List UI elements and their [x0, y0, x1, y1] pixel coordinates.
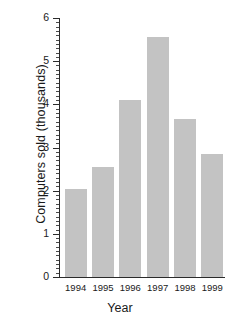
tick-mark — [56, 117, 60, 118]
tick-mark — [56, 35, 60, 36]
y-tick-label: 0 — [43, 270, 49, 282]
tick-mark — [53, 18, 59, 19]
tick-mark — [53, 61, 59, 62]
tick-mark — [56, 96, 60, 97]
y-tick-label: 4 — [43, 97, 49, 109]
tick-mark — [56, 139, 60, 140]
y-tick-label: 2 — [43, 184, 49, 196]
tick-mark — [56, 100, 60, 101]
tick-mark — [56, 143, 60, 144]
tick-mark — [56, 156, 60, 157]
tick-mark — [56, 212, 60, 213]
bar — [119, 100, 141, 277]
x-tick-label: 1999 — [192, 282, 232, 293]
tick-mark — [56, 230, 60, 231]
y-tick-label: 1 — [43, 227, 49, 239]
y-tick-label: 6 — [43, 11, 49, 23]
tick-mark — [56, 199, 60, 200]
tick-mark — [53, 277, 59, 278]
tick-mark — [56, 48, 60, 49]
tick-mark — [53, 148, 59, 149]
tick-mark — [56, 40, 60, 41]
tick-mark — [56, 65, 60, 66]
tick-mark — [56, 255, 60, 256]
tick-mark — [53, 104, 59, 105]
tick-mark — [56, 78, 60, 79]
tick-mark — [56, 122, 60, 123]
tick-mark — [56, 247, 60, 248]
tick-mark — [56, 165, 60, 166]
x-axis-line — [59, 277, 225, 278]
tick-mark — [56, 160, 60, 161]
bar-chart: Computers sold (thousands) 0123456 19941… — [0, 0, 240, 327]
tick-mark — [53, 191, 59, 192]
tick-mark — [56, 31, 60, 32]
y-tick-label: 3 — [43, 141, 49, 153]
tick-mark — [56, 83, 60, 84]
y-tick-label: 5 — [43, 54, 49, 66]
tick-mark — [56, 186, 60, 187]
tick-mark — [53, 234, 59, 235]
bar — [147, 37, 169, 277]
tick-mark — [56, 126, 60, 127]
tick-mark — [56, 217, 60, 218]
tick-mark — [56, 74, 60, 75]
tick-mark — [56, 22, 60, 23]
bar — [65, 189, 87, 277]
tick-mark — [56, 221, 60, 222]
tick-mark — [56, 130, 60, 131]
tick-mark — [56, 225, 60, 226]
tick-mark — [56, 195, 60, 196]
tick-mark — [56, 204, 60, 205]
tick-mark — [56, 57, 60, 58]
bar — [201, 154, 223, 277]
tick-mark — [56, 264, 60, 265]
tick-mark — [56, 53, 60, 54]
tick-mark — [56, 169, 60, 170]
x-axis-title: Year — [0, 301, 240, 315]
tick-mark — [56, 273, 60, 274]
plot-area — [60, 18, 224, 277]
tick-mark — [56, 238, 60, 239]
tick-mark — [56, 27, 60, 28]
tick-mark — [56, 70, 60, 71]
tick-mark — [56, 113, 60, 114]
tick-mark — [56, 152, 60, 153]
tick-mark — [56, 182, 60, 183]
tick-mark — [56, 268, 60, 269]
bar — [174, 119, 196, 277]
tick-mark — [56, 260, 60, 261]
tick-mark — [56, 109, 60, 110]
tick-mark — [56, 242, 60, 243]
tick-mark — [56, 44, 60, 45]
tick-mark — [56, 91, 60, 92]
tick-mark — [56, 135, 60, 136]
tick-mark — [56, 251, 60, 252]
tick-mark — [56, 87, 60, 88]
tick-mark — [56, 178, 60, 179]
tick-mark — [56, 173, 60, 174]
bar — [92, 167, 114, 277]
tick-mark — [56, 208, 60, 209]
